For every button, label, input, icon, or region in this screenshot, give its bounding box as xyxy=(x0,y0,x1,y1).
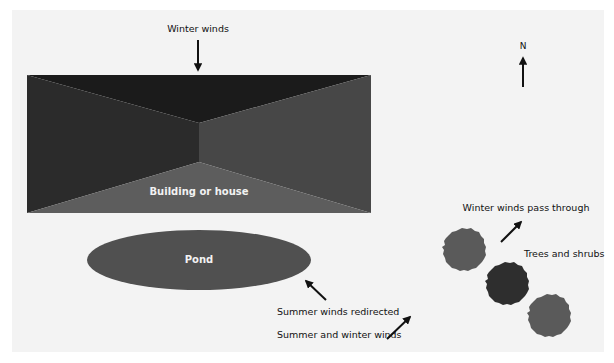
north-label: N xyxy=(520,40,527,52)
building-label: Building or house xyxy=(149,186,248,198)
winter-pass-arrow xyxy=(501,222,521,242)
tree-1 xyxy=(442,228,486,271)
tree-3 xyxy=(527,294,571,337)
summer-redirected-label: Summer winds redirected xyxy=(277,306,399,318)
winter-winds-label: Winter winds xyxy=(167,23,229,35)
tree-2 xyxy=(485,262,529,305)
trees-and-shrubs xyxy=(442,228,571,337)
winter-pass-label: Winter winds pass through xyxy=(463,202,590,214)
summer-winter-label: Summer and winter winds xyxy=(277,329,402,341)
trees-label: Trees and shrubs xyxy=(524,248,605,260)
pond-label: Pond xyxy=(185,254,213,266)
summer-redirected-arrow xyxy=(306,281,326,300)
